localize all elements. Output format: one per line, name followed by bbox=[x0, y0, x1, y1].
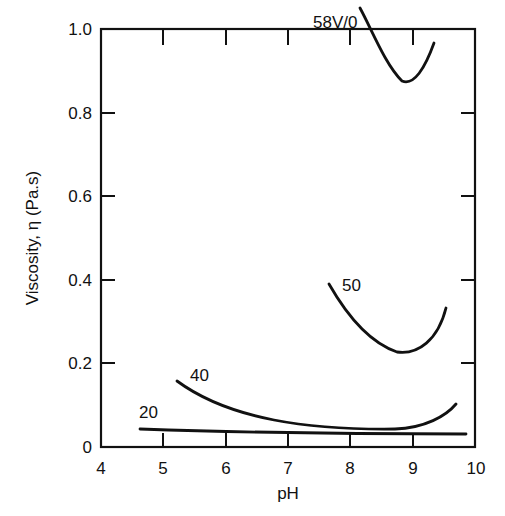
curve-label-58V0: 58V/0 bbox=[313, 13, 357, 32]
y-tick-1.0: 1.0 bbox=[68, 20, 92, 39]
viscosity-chart: 4 5 6 7 8 9 10 0 0.2 0.4 0.6 0.8 1.0 pH … bbox=[0, 0, 505, 516]
x-tick-7: 7 bbox=[283, 459, 292, 478]
curve-58V0 bbox=[360, 8, 434, 82]
y-tick-0: 0 bbox=[83, 438, 92, 457]
x-axis-title: pH bbox=[277, 484, 299, 503]
x-tick-6: 6 bbox=[221, 459, 230, 478]
x-tick-labels: 4 5 6 7 8 9 10 bbox=[96, 459, 485, 478]
x-tick-5: 5 bbox=[158, 459, 167, 478]
y-tick-labels: 0 0.2 0.4 0.6 0.8 1.0 bbox=[68, 20, 92, 457]
x-tick-4: 4 bbox=[96, 459, 105, 478]
y-tick-0.8: 0.8 bbox=[68, 104, 92, 123]
curve-label-20: 20 bbox=[139, 403, 158, 422]
y-tick-0.6: 0.6 bbox=[68, 187, 92, 206]
x-tick-10: 10 bbox=[467, 459, 486, 478]
curves bbox=[140, 8, 466, 434]
x-tick-9: 9 bbox=[408, 459, 417, 478]
curve-label-40: 40 bbox=[190, 366, 209, 385]
y-ticks bbox=[101, 113, 475, 363]
y-tick-0.2: 0.2 bbox=[68, 354, 92, 373]
curve-40 bbox=[177, 381, 456, 429]
curve-label-50: 50 bbox=[342, 276, 361, 295]
y-axis-title: Viscosity, η (Pa.s) bbox=[23, 171, 42, 305]
plot-frame bbox=[101, 29, 475, 447]
curve-20 bbox=[140, 429, 466, 434]
x-tick-8: 8 bbox=[345, 459, 354, 478]
y-tick-0.4: 0.4 bbox=[68, 271, 92, 290]
